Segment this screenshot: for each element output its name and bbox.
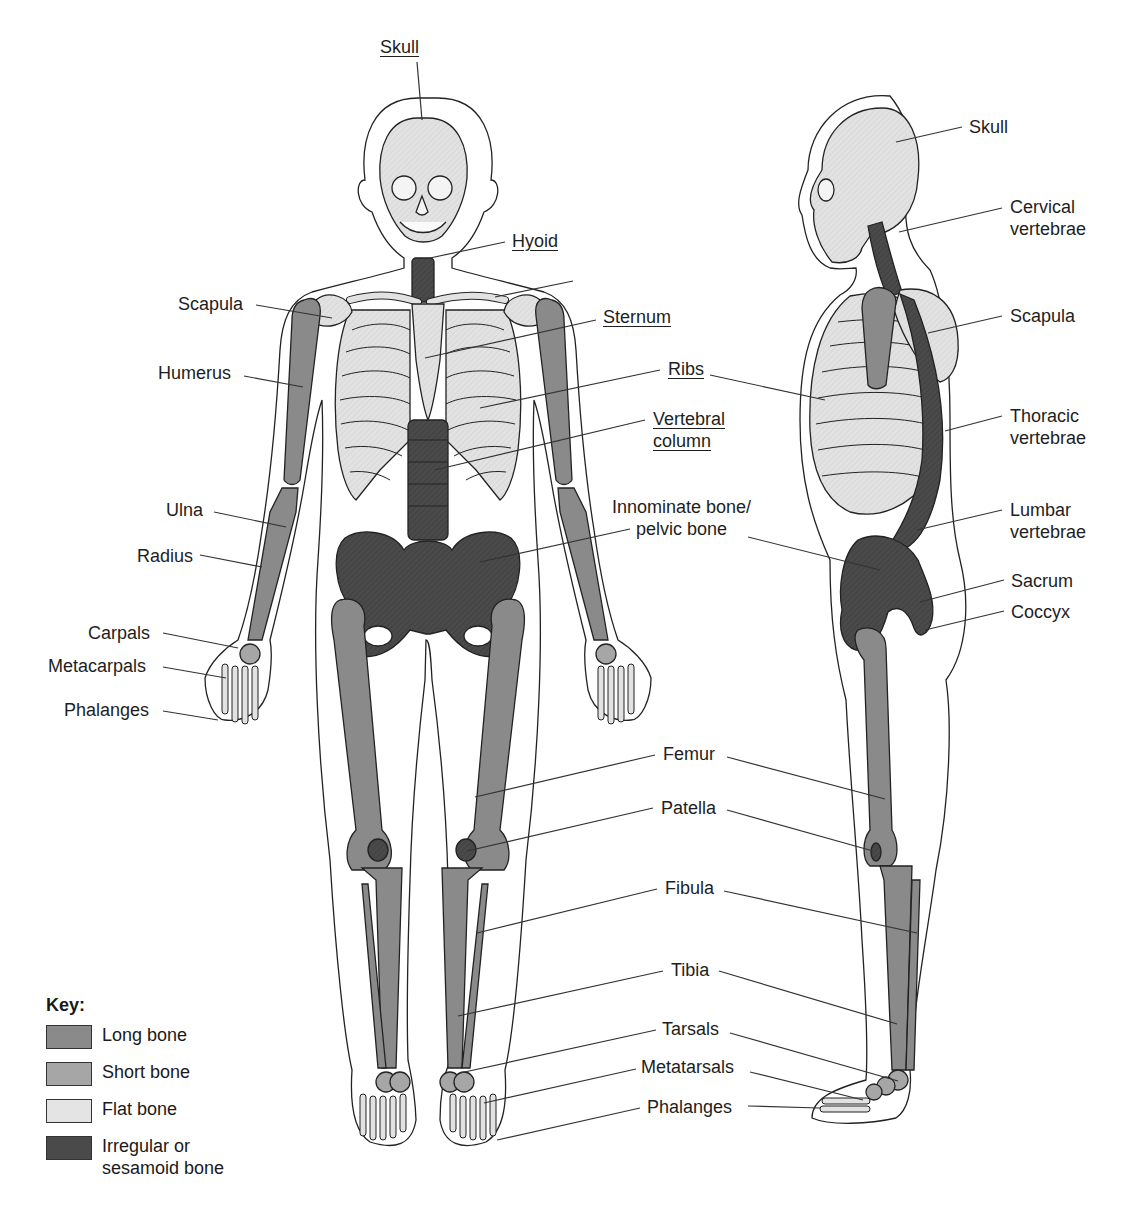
key-label: Irregular orsesamoid bone — [102, 1135, 224, 1179]
front-vertebral-column — [408, 420, 448, 540]
front-label-radius: Radius — [137, 545, 193, 567]
side-patella — [871, 843, 881, 861]
side-femur — [855, 628, 897, 866]
front-carpals-leader-line — [163, 633, 238, 648]
front-phalanges-hand-leader-line — [163, 711, 218, 720]
key-legend: Key: Long boneShort boneFlat boneIrregul… — [46, 995, 224, 1172]
side-label-cervical-vertebrae: Cervicalvertebrae — [1010, 196, 1086, 240]
front-label-metatarsals: Metatarsals — [641, 1056, 734, 1078]
front-label-ribs: Ribs — [668, 358, 704, 380]
key-item: Irregular orsesamoid bone — [46, 1135, 224, 1172]
front-metatarsals-leader-line — [484, 1069, 636, 1103]
front-label-phalanges-hand: Phalanges — [64, 699, 149, 721]
side-label-lumbar-vertebrae: Lumbarvertebrae — [1010, 499, 1086, 543]
front-label-ulna: Ulna — [166, 499, 203, 521]
side-label-skull: Skull — [969, 116, 1008, 138]
front-label-fibula: Fibula — [665, 877, 714, 899]
front-label-innominate: Innominate bone/pelvic bone — [612, 496, 751, 540]
side-skeleton — [799, 96, 966, 1124]
side-ribs-side-leader-line — [710, 375, 825, 400]
side-tibia-side-leader-line — [719, 971, 897, 1024]
key-label: Long bone — [102, 1024, 187, 1046]
side-phalanges-side-leader-line — [748, 1106, 820, 1108]
front-cervical-vertebrae — [412, 258, 434, 302]
key-label: Flat bone — [102, 1098, 177, 1120]
front-label-femur: Femur — [663, 743, 715, 765]
front-radius-leader-line — [200, 555, 262, 567]
key-label: Short bone — [102, 1061, 190, 1083]
front-radius-ulna-right — [558, 488, 608, 640]
front-radius-ulna-left — [248, 488, 298, 640]
key-swatch — [46, 1136, 92, 1160]
front-label-tibia: Tibia — [671, 959, 709, 981]
key-title: Key: — [46, 995, 224, 1016]
side-label-scapula: Scapula — [1010, 305, 1075, 327]
side-label-thoracic-vertebrae: Thoracicvertebrae — [1010, 405, 1086, 449]
front-label-tarsals: Tarsals — [662, 1018, 719, 1040]
front-label-phalanges-foot: Phalanges — [647, 1096, 732, 1118]
front-label-skull: Skull — [380, 36, 419, 58]
key-item: Flat bone — [46, 1098, 224, 1135]
key-item: Long bone — [46, 1024, 224, 1061]
front-clavicle-line-leader-line — [495, 281, 573, 297]
front-patella-left — [368, 839, 388, 861]
side-cervical-vertebrae — [868, 222, 902, 298]
key-swatch — [46, 1062, 92, 1086]
side-patella-side-leader-line — [727, 810, 873, 851]
side-pelvis — [841, 536, 933, 650]
front-label-metacarpals: Metacarpals — [48, 655, 146, 677]
front-skull-leader-line — [417, 62, 422, 120]
side-label-coccyx: Coccyx — [1011, 601, 1070, 623]
front-tarsals-leader-line — [460, 1030, 656, 1073]
front-sternum — [412, 304, 444, 420]
front-fibula-leader-line — [477, 889, 657, 933]
key-swatch — [46, 1025, 92, 1049]
front-label-carpals: Carpals — [88, 622, 150, 644]
front-tibia-leader-line — [458, 971, 663, 1016]
front-metacarpals-leader-line — [163, 667, 226, 678]
side-label-sacrum: Sacrum — [1011, 570, 1073, 592]
front-label-humerus: Humerus — [158, 362, 231, 384]
front-humerus-left — [284, 299, 320, 485]
side-cervical-vertebrae-leader-line — [899, 208, 1002, 232]
front-label-scapula: Scapula — [178, 293, 243, 315]
key-item: Short bone — [46, 1061, 224, 1098]
side-sacrum-leader-line — [920, 580, 1004, 602]
side-femur-side-leader-line — [727, 757, 885, 799]
front-label-vertebral-column: Vertebralcolumn — [653, 408, 725, 452]
key-swatch — [46, 1099, 92, 1123]
front-phalanges-foot-leader-line — [497, 1108, 640, 1140]
front-label-patella: Patella — [661, 797, 716, 819]
front-label-sternum: Sternum — [603, 306, 671, 328]
front-label-hyoid: Hyoid — [512, 230, 558, 252]
side-thoracic-vertebrae-leader-line — [945, 416, 1002, 431]
